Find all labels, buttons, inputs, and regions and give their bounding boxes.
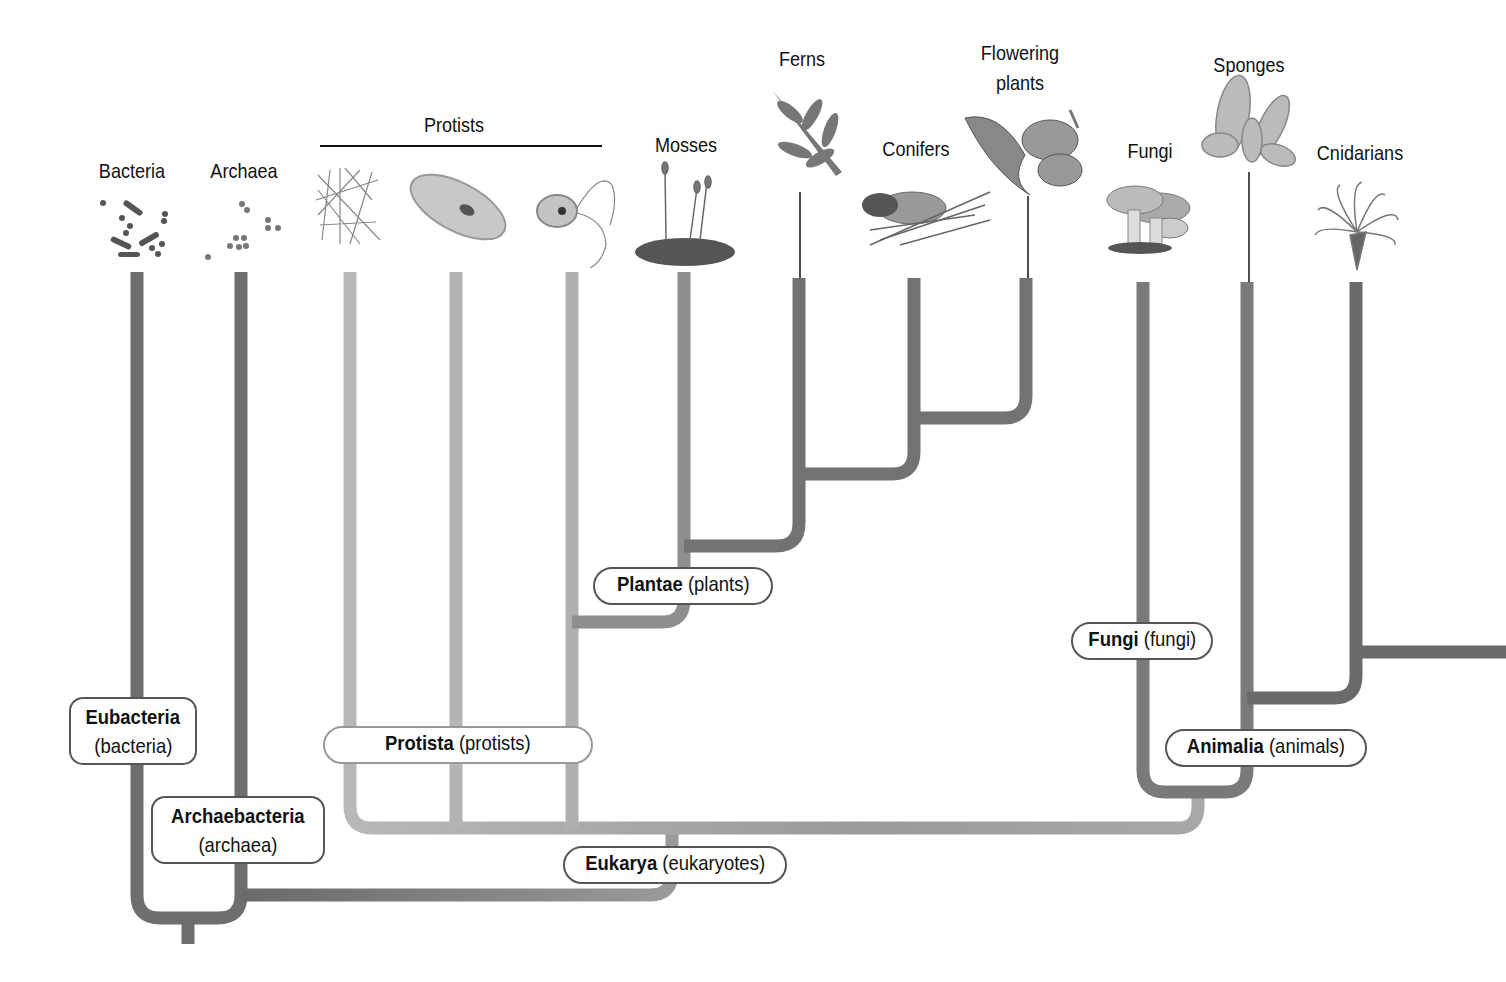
branch-conifers <box>799 278 914 474</box>
group-protista: Protista (protists) <box>323 726 593 764</box>
flagellate-icon <box>537 181 615 268</box>
group-plantae-common: (plants) <box>688 572 750 595</box>
slime-mold-icon <box>316 168 380 244</box>
branch-cnidarians <box>1247 282 1356 698</box>
group-protista-common: (protists) <box>459 731 531 754</box>
group-eubacteria-name: Eubacteria <box>86 705 181 728</box>
taxon-label-conifers: Conifers <box>873 134 959 164</box>
group-plantae-name: Plantae <box>617 572 683 595</box>
taxon-label-mosses: Mosses <box>643 130 729 160</box>
fern-icon <box>772 90 842 176</box>
taxon-label-flowering: Flowering <box>968 38 1071 68</box>
taxon-label-flowering-line2: plants <box>968 68 1071 98</box>
group-eukarya-name: Eukarya <box>585 851 657 874</box>
group-archaebacteria-common: (archaea) <box>198 833 277 856</box>
branch-flowering <box>914 278 1026 418</box>
taxon-label-bacteria: Bacteria <box>89 156 175 186</box>
taxon-label-protists: Protists <box>411 110 497 140</box>
mushroom-icon <box>1107 186 1190 254</box>
group-fungi-name: Fungi <box>1088 627 1138 650</box>
taxon-label-sponges: Sponges <box>1206 50 1292 80</box>
group-fungi: Fungi (fungi) <box>1071 622 1213 660</box>
group-archaebacteria-name: Archaebacteria <box>171 804 305 827</box>
group-animalia-common: (animals) <box>1269 734 1345 757</box>
group-eubacteria: Eubacteria (bacteria) <box>69 697 197 765</box>
group-animalia: Animalia (animals) <box>1165 729 1367 767</box>
group-eukarya-common: (eukaryotes) <box>662 851 765 874</box>
branch-ferns <box>684 278 799 546</box>
taxon-label-archaea: Archaea <box>201 156 287 186</box>
group-protista-name: Protista <box>385 731 454 754</box>
archaea-icon <box>205 201 281 260</box>
taxon-label-ferns: Ferns <box>759 44 845 74</box>
group-archaebacteria: Archaebacteria (archaea) <box>151 796 325 864</box>
paramecium-icon <box>401 161 515 252</box>
group-animalia-name: Animalia <box>1187 734 1264 757</box>
group-fungi-common: (fungi) <box>1144 627 1196 650</box>
group-eukarya: Eukarya (eukaryotes) <box>563 846 787 884</box>
moss-icon <box>635 162 735 266</box>
taxon-label-fungi: Fungi <box>1107 136 1193 166</box>
sponge-icon <box>1202 73 1298 171</box>
branch-fungi-animals <box>1143 282 1247 792</box>
group-plantae: Plantae (plants) <box>593 567 773 605</box>
bacteria-icon <box>100 199 168 257</box>
flower-icon <box>965 110 1082 195</box>
anemone-icon <box>1315 182 1398 270</box>
pinecone-icon <box>862 192 990 245</box>
group-eubacteria-common: (bacteria) <box>94 734 172 757</box>
taxon-label-cnidarians: Cnidarians <box>1308 138 1411 168</box>
